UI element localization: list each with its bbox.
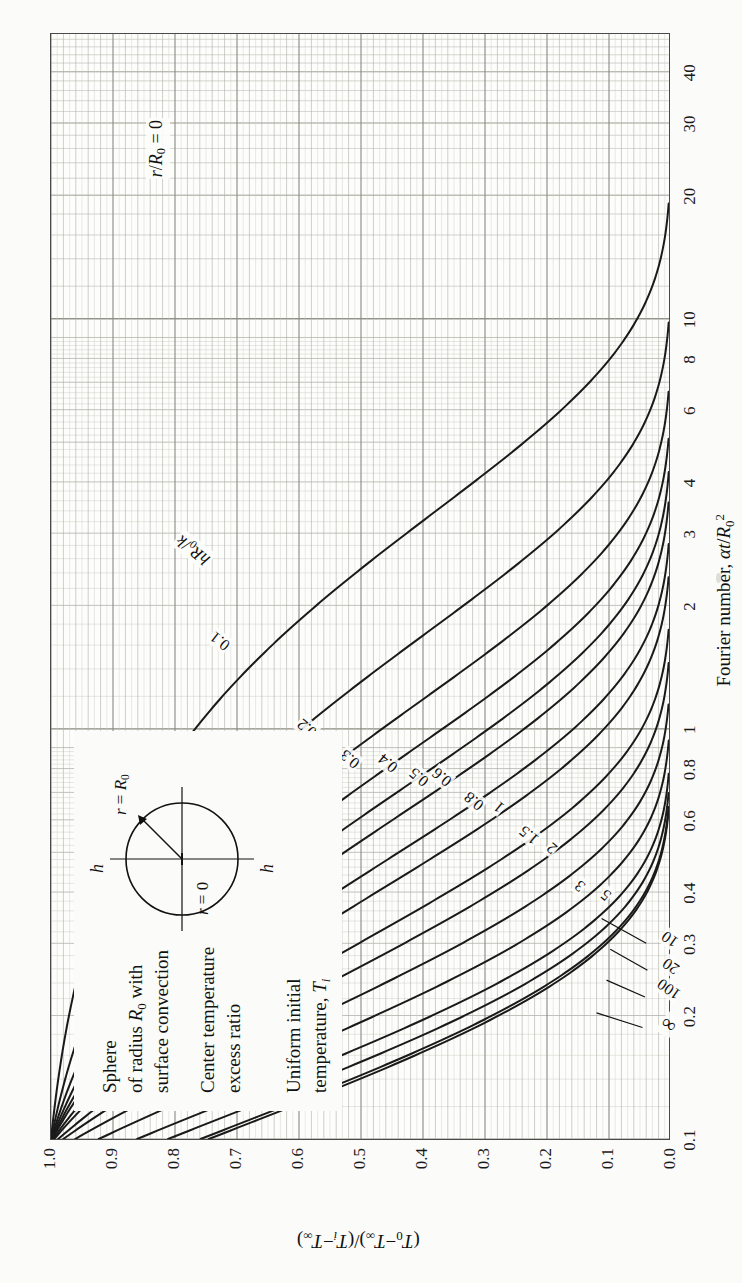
- x-tick-label-10: 10: [680, 311, 700, 328]
- x-tick-label-0.6: 0.6: [680, 810, 700, 831]
- x-tick-label-2: 2: [680, 602, 700, 611]
- legend-h-top-label: h: [86, 864, 109, 873]
- x-tick-label-6: 6: [680, 406, 700, 415]
- x-tick-label-40: 40: [680, 64, 700, 81]
- x-tick-label-0.4: 0.4: [680, 882, 700, 903]
- figure-page: 0.10.20.30.40.60.8123468102030400.00.10.…: [0, 0, 742, 1283]
- x-tick-label-0.8: 0.8: [680, 759, 700, 780]
- x-tick-label-0.3: 0.3: [680, 934, 700, 955]
- x-tick-label-20: 20: [680, 188, 700, 205]
- x-tick-label-1: 1: [680, 726, 700, 735]
- rotated-figure-wrapper: 0.10.20.30.40.60.8123468102030400.00.10.…: [0, 0, 742, 1283]
- legend-box: Sphere of radius R0 with surface convect…: [74, 731, 342, 1111]
- x-tick-label-30: 30: [680, 116, 700, 133]
- x-tick-label-0.2: 0.2: [680, 1006, 700, 1027]
- y-tick-label-0.7: 0.7: [226, 1148, 246, 1192]
- legend-h-bottom-label: h: [256, 864, 279, 873]
- y-tick-label-0.3: 0.3: [474, 1148, 494, 1192]
- y-tick-label-0.5: 0.5: [350, 1148, 370, 1192]
- legend-r-surface-label: r = R0: [110, 774, 134, 815]
- x-tick-label-0.1: 0.1: [680, 1129, 700, 1150]
- radius-arrow-line: [143, 820, 182, 859]
- x-tick-label-3: 3: [680, 530, 700, 539]
- y-tick-label-0.4: 0.4: [412, 1148, 432, 1192]
- y-tick-label-0.0: 0.0: [660, 1148, 680, 1192]
- x-axis-title: Fourier number, αt/R02: [712, 514, 738, 687]
- heisler-chart-figure: 0.10.20.30.40.60.8123468102030400.00.10.…: [0, 0, 742, 1283]
- paper-smudge: [716, 573, 721, 583]
- y-tick-label-0.9: 0.9: [102, 1148, 122, 1192]
- x-tick-label-4: 4: [680, 479, 700, 488]
- y-tick-label-0.6: 0.6: [288, 1148, 308, 1192]
- radius-ratio-annotation: r/R0 = 0: [146, 118, 169, 179]
- y-tick-label-0.8: 0.8: [164, 1148, 184, 1192]
- x-tick-label-8: 8: [680, 355, 700, 364]
- y-tick-label-1.0: 1.0: [40, 1148, 60, 1192]
- legend-r-center-label: r = 0: [192, 882, 213, 915]
- y-axis-title: (T0−T∞)/(Ti−T∞): [258, 1228, 458, 1253]
- y-tick-label-0.1: 0.1: [598, 1148, 618, 1192]
- y-tick-label-0.2: 0.2: [536, 1148, 556, 1192]
